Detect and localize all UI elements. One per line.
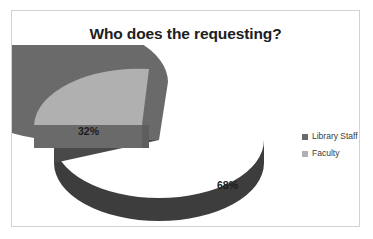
- pie-label-faculty: 32%: [78, 125, 99, 137]
- legend-label-faculty: Faculty: [312, 149, 339, 158]
- legend-swatch-icon-library-staff: [302, 134, 308, 140]
- legend-swatch-icon-faculty: [302, 151, 308, 157]
- legend-item-library-staff[interactable]: Library Staff: [302, 131, 368, 142]
- legend-item-faculty[interactable]: Faculty: [302, 148, 368, 159]
- legend-label-library-staff: Library Staff: [312, 132, 358, 141]
- pie-chart-plot-area: 32% 68%: [12, 45, 292, 225]
- chart-frame: Who does the requesting?: [11, 10, 360, 227]
- chart-legend: Library Staff Faculty: [302, 131, 368, 165]
- chart-title: Who does the requesting?: [12, 25, 359, 42]
- pie-chart-svg: [12, 45, 292, 225]
- pie-label-library-staff: 68%: [217, 179, 238, 191]
